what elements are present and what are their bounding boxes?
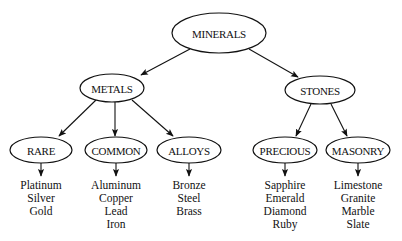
edge-stones-masonry	[331, 104, 347, 136]
leaf-item: Lead	[105, 205, 128, 217]
leaf-item: Marble	[341, 205, 374, 217]
node-minerals: MINERALS	[172, 13, 266, 53]
leaf-item: Limestone	[334, 179, 383, 191]
node-label-stones: STONES	[300, 85, 340, 97]
leaf-lists: Platinum Silver Gold Aluminum Copper Lea…	[20, 179, 382, 231]
node-metals: METALS	[80, 74, 144, 102]
leaf-list-common: Aluminum Copper Lead Iron	[91, 179, 141, 230]
node-label-alloys: ALLOYS	[168, 145, 210, 157]
leaf-list-masonry: Limestone Granite Marble Slate	[334, 179, 383, 230]
node-label-minerals: MINERALS	[192, 28, 246, 40]
leaf-item: Bronze	[172, 179, 205, 191]
leaf-list-rare: Platinum Silver Gold	[20, 179, 62, 217]
leaf-item: Iron	[106, 218, 125, 230]
leaf-item: Ruby	[273, 218, 298, 231]
edge-metals-alloys	[132, 100, 173, 136]
node-label-precious: PRECIOUS	[260, 145, 311, 157]
node-rare: RARE	[10, 137, 72, 163]
nodes: MINERALS METALS STONES RARE COMMON ALLOY…	[10, 13, 390, 163]
node-common: COMMON	[85, 137, 147, 163]
leaf-list-alloys: Bronze Steel Brass	[172, 179, 205, 217]
leaf-item: Aluminum	[91, 179, 141, 191]
leaf-item: Sapphire	[265, 179, 306, 192]
node-label-common: COMMON	[92, 145, 141, 157]
node-stones: STONES	[285, 76, 355, 104]
node-precious: PRECIOUS	[253, 137, 317, 163]
leaf-item: Silver	[27, 192, 55, 204]
leaf-item: Platinum	[20, 179, 62, 191]
node-label-rare: RARE	[27, 145, 56, 157]
edge-minerals-stones	[249, 49, 298, 77]
mineral-classification-diagram: MINERALS METALS STONES RARE COMMON ALLOY…	[0, 0, 402, 241]
leaf-item: Granite	[341, 192, 375, 204]
edge-metals-rare	[59, 100, 96, 136]
edge-stones-precious	[296, 104, 311, 136]
leaf-item: Brass	[176, 205, 202, 217]
leaf-item: Steel	[178, 192, 201, 204]
leaf-item: Slate	[347, 218, 370, 230]
leaf-item: Emerald	[266, 192, 305, 204]
leaf-item: Diamond	[264, 205, 307, 217]
node-masonry: MASONRY	[326, 137, 390, 163]
leaf-item: Gold	[30, 205, 53, 217]
leaf-item: Copper	[99, 192, 133, 205]
edge-minerals-metals	[141, 49, 190, 75]
node-alloys: ALLOYS	[157, 137, 221, 163]
node-label-masonry: MASONRY	[332, 145, 385, 157]
node-label-metals: METALS	[91, 83, 133, 95]
leaf-list-precious: Sapphire Emerald Diamond Ruby	[264, 179, 307, 231]
